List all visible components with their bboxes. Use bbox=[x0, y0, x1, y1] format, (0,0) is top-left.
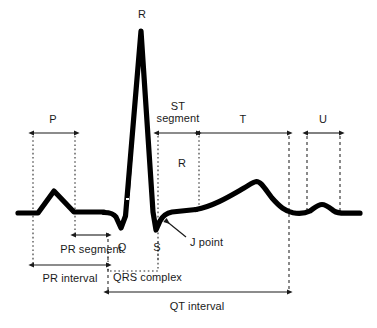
label-st-segment-line1: ST bbox=[171, 100, 185, 112]
label-u: U bbox=[319, 113, 327, 125]
label-t: T bbox=[240, 113, 247, 125]
label-r-mid: R bbox=[178, 157, 186, 169]
label-pr-segment: PR segment bbox=[60, 243, 122, 255]
trace-mask bbox=[126, 198, 129, 200]
label-qt-interval: QT interval bbox=[170, 300, 225, 312]
ecg-trace-t-u bbox=[196, 182, 360, 214]
label-j-point: J point bbox=[190, 236, 223, 248]
label-qrs-complex: QRS complex bbox=[113, 271, 182, 283]
ecg-trace-qrs bbox=[104, 31, 196, 230]
label-st-segment-line2: segment bbox=[157, 111, 200, 123]
j-point-pointer-arrow bbox=[165, 220, 186, 237]
label-st-segment: ST segment bbox=[157, 101, 200, 124]
label-p: P bbox=[49, 113, 56, 125]
ecg-diagram: P R ST segment T U R Q S J point PR segm… bbox=[0, 0, 377, 328]
label-r-top: R bbox=[138, 8, 146, 20]
ecg-trace bbox=[18, 191, 104, 213]
label-s: S bbox=[153, 241, 160, 253]
label-pr-interval: PR interval bbox=[43, 272, 98, 284]
